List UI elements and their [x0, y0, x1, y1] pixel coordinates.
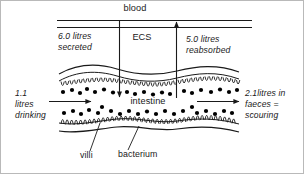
bacterium-leader-line [128, 126, 139, 150]
faeces-volume-label: 2.1litres in [245, 89, 285, 99]
villi-label: villi [80, 151, 93, 161]
intestine-label: intestine [118, 96, 178, 106]
villi-leader-line [90, 123, 100, 151]
drinking-volume-label: 1.1 [15, 89, 27, 99]
blood-label: blood [100, 3, 170, 13]
diagram-figure: blood ECS 6.0 litres secreted 5.0 litres… [0, 0, 304, 174]
drinking-unit-label: litres [15, 100, 34, 110]
secreted-action-label: secreted [58, 43, 92, 53]
drinking-action-label: drinking [15, 111, 46, 121]
reabsorbed-action-label: reabsorbed [186, 46, 230, 56]
ecs-label: ECS [119, 32, 165, 42]
faeces-destination-label: faeces = [245, 100, 279, 110]
blood-vessel-lines [57, 21, 252, 28]
upper-intestinal-wall [59, 65, 240, 96]
bacterium-label: bacterium [118, 150, 158, 160]
faeces-outcome-label: scouring [245, 111, 278, 121]
secreted-volume-label: 6.0 litres [58, 32, 91, 42]
reabsorbed-volume-label: 5.0 litres [186, 35, 219, 45]
lower-intestinal-wall [59, 105, 239, 132]
lower-bacteria [62, 105, 234, 116]
lower-wall-outer-line [59, 127, 239, 132]
